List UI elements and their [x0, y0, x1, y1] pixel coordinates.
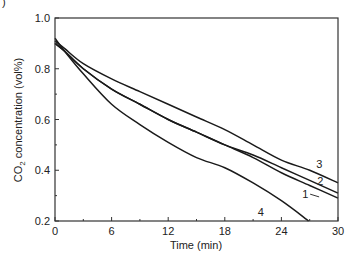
y-axis-title-post: concentration (vol%): [12, 58, 24, 161]
curve-1: [55, 43, 338, 198]
curve-label-1: 1: [302, 188, 308, 200]
x-tick-label: 0: [52, 225, 58, 237]
y-tick-label: 0.2: [35, 215, 50, 227]
curve-label-2: 2: [317, 175, 323, 187]
co2-concentration-chart: ) 0612182430 0.20.40.60.81.0 1234 Time (…: [0, 0, 359, 267]
data-curves: [55, 38, 338, 221]
y-tick-label: 0.6: [35, 114, 50, 126]
y-tick-label: 0.8: [35, 63, 50, 75]
curve-label-4: 4: [258, 206, 264, 218]
curve-4: [55, 38, 309, 221]
curve-2: [55, 43, 338, 193]
curve-1-leader-line: [310, 194, 319, 197]
x-tick-label: 6: [109, 225, 115, 237]
curve-3: [55, 41, 338, 183]
y-tick-label: 0.4: [35, 164, 50, 176]
plot-frame: [55, 18, 338, 221]
x-tick-label: 24: [275, 225, 287, 237]
x-axis-ticks: 0612182430: [52, 217, 344, 237]
x-tick-label: 12: [162, 225, 174, 237]
curve-label-3: 3: [316, 158, 322, 170]
x-tick-label: 30: [332, 225, 344, 237]
y-tick-label: 1.0: [35, 12, 50, 24]
x-tick-label: 18: [219, 225, 231, 237]
x-axis-title: Time (min): [170, 239, 222, 251]
y-axis-title-pre: CO: [12, 165, 24, 182]
panel-label-fragment: ): [2, 0, 6, 8]
y-axis-title: CO2 concentration (vol%): [12, 58, 27, 182]
